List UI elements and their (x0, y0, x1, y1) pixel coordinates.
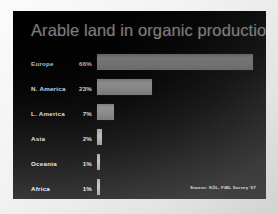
bar-oceania (97, 154, 100, 170)
bar-asia (97, 129, 102, 145)
bar-track (97, 104, 266, 126)
bar-track (97, 154, 266, 176)
chart-row: Asia 2% (13, 128, 266, 153)
source-attribution: Source: SÖL, FiBL Survey '07 (190, 185, 256, 190)
category-label: Asia (31, 135, 45, 142)
bar-europe (97, 54, 253, 70)
chart-row: L. America 7% (13, 103, 266, 128)
value-label: 23% (57, 85, 92, 92)
category-label: Europe (31, 60, 54, 67)
bar-l-america (97, 104, 114, 120)
chart-row: N. America 23% (13, 78, 266, 103)
bar-africa (97, 179, 100, 195)
value-label: 2% (57, 135, 92, 142)
category-label: Africa (31, 185, 50, 192)
value-label: 66% (57, 60, 92, 67)
value-label: 1% (57, 160, 92, 167)
bar-chart: Europe 66% N. America 23% L. America 7% (13, 53, 266, 199)
chart-row: Oceania 1% (13, 153, 266, 178)
presentation-slide: Arable land in organic production Europe… (13, 11, 266, 199)
bar-track (97, 54, 266, 76)
bar-track (97, 79, 266, 101)
value-label: 7% (57, 110, 92, 117)
bar-track (97, 129, 266, 151)
chart-row: Europe 66% (13, 53, 266, 78)
value-label: 1% (57, 185, 92, 192)
photo-frame: Arable land in organic production Europe… (0, 0, 278, 214)
category-label: Oceania (31, 160, 57, 167)
page-title: Arable land in organic production (31, 21, 266, 40)
bar-n-america (97, 79, 152, 95)
